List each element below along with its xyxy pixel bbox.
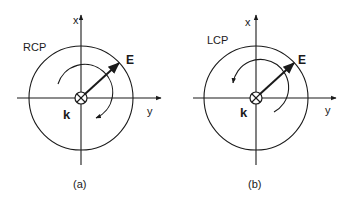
- polarization-label: RCP: [23, 41, 46, 53]
- e-field-label: E: [126, 53, 134, 67]
- x-axis-label: x: [73, 14, 79, 26]
- x-axis-label: x: [245, 16, 251, 28]
- panel-caption: (b): [248, 178, 261, 190]
- e-field-vector: [85, 63, 119, 94]
- y-axis-label: y: [325, 104, 331, 116]
- polarization-label: LCP: [207, 34, 228, 46]
- e-field-label: E: [298, 53, 306, 67]
- k-label: k: [63, 107, 71, 122]
- panel-a: x y RCP E k (a): [17, 14, 161, 190]
- k-label: k: [240, 105, 248, 120]
- polarization-diagram: x y RCP E k (a) x y LCP E k (b): [0, 0, 355, 201]
- panel-b: x y LCP E k (b): [193, 15, 336, 190]
- panel-caption: (a): [73, 178, 86, 190]
- y-axis-label: y: [147, 105, 153, 117]
